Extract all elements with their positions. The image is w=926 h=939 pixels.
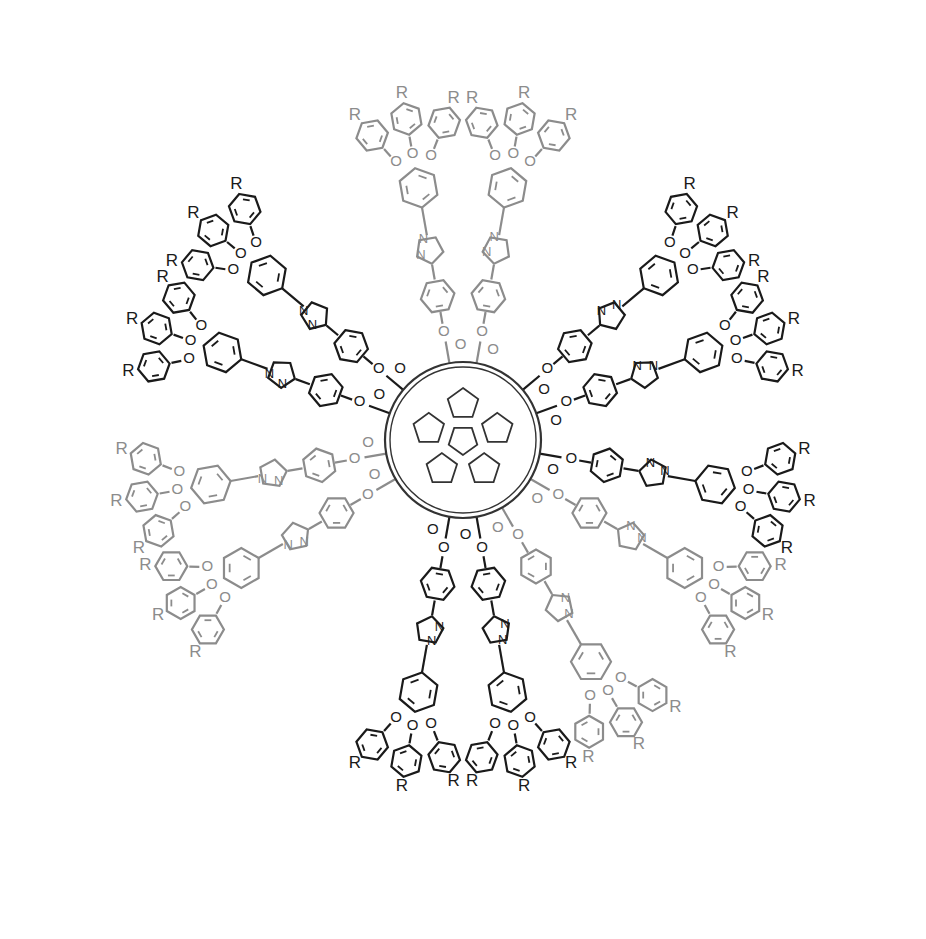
svg-text:N: N — [416, 247, 425, 262]
svg-text:O: O — [369, 465, 381, 482]
svg-text:N: N — [637, 530, 646, 545]
svg-text:O: O — [489, 714, 501, 731]
svg-text:O: O — [476, 538, 488, 555]
svg-text:N: N — [632, 358, 641, 373]
svg-text:O: O — [492, 518, 504, 535]
svg-text:O: O — [687, 260, 699, 277]
svg-text:R: R — [166, 251, 178, 270]
dendrimer-figure: OONNOROROROONNOROROROONNOROROROONNOROROR… — [0, 0, 926, 939]
svg-text:O: O — [731, 349, 743, 366]
svg-text:O: O — [541, 359, 553, 376]
svg-text:R: R — [518, 776, 530, 795]
svg-text:R: R — [775, 555, 787, 574]
svg-text:O: O — [206, 575, 218, 592]
svg-text:R: R — [126, 309, 138, 328]
svg-text:O: O — [584, 686, 596, 703]
svg-text:O: O — [664, 233, 676, 250]
dendron-arm: OONNOROROR — [460, 517, 578, 795]
dendron-arm: OONNOROROR — [166, 174, 406, 390]
svg-text:R: R — [349, 753, 361, 772]
svg-text:N: N — [498, 632, 507, 647]
svg-text:R: R — [565, 105, 577, 124]
svg-text:R: R — [448, 88, 460, 107]
svg-text:O: O — [508, 716, 520, 733]
svg-text:O: O — [362, 433, 374, 450]
svg-text:R: R — [115, 439, 127, 458]
svg-text:R: R — [724, 642, 736, 661]
svg-text:N: N — [646, 455, 655, 470]
svg-text:O: O — [538, 380, 550, 397]
svg-text:O: O — [708, 575, 720, 592]
svg-text:O: O — [438, 322, 450, 339]
svg-text:R: R — [762, 605, 774, 624]
svg-text:R: R — [798, 439, 810, 458]
svg-text:O: O — [172, 480, 184, 497]
svg-text:O: O — [460, 525, 472, 542]
svg-text:O: O — [512, 525, 524, 542]
svg-text:R: R — [565, 753, 577, 772]
svg-text:O: O — [250, 233, 262, 250]
svg-text:O: O — [407, 144, 419, 161]
svg-text:R: R — [669, 697, 681, 716]
svg-text:R: R — [396, 83, 408, 102]
svg-text:R: R — [110, 491, 122, 510]
svg-text:O: O — [183, 349, 195, 366]
svg-text:O: O — [455, 335, 467, 352]
svg-text:N: N — [283, 537, 292, 552]
svg-text:N: N — [427, 633, 436, 648]
svg-text:R: R — [791, 361, 803, 380]
svg-text:R: R — [727, 203, 739, 222]
svg-text:O: O — [219, 588, 231, 605]
svg-text:N: N — [435, 619, 444, 634]
svg-text:O: O — [180, 497, 192, 514]
svg-text:O: O — [201, 557, 213, 574]
svg-text:R: R — [349, 105, 361, 124]
svg-text:N: N — [308, 317, 317, 332]
svg-text:O: O — [394, 359, 406, 376]
svg-text:O: O — [390, 152, 402, 169]
svg-text:O: O — [615, 668, 627, 685]
svg-text:N: N — [300, 534, 309, 549]
svg-text:R: R — [189, 642, 201, 661]
svg-text:N: N — [482, 244, 491, 259]
svg-text:R: R — [139, 555, 151, 574]
svg-text:N: N — [258, 471, 267, 486]
svg-text:R: R — [781, 538, 793, 557]
svg-text:R: R — [152, 605, 164, 624]
svg-text:R: R — [396, 776, 408, 795]
svg-text:R: R — [757, 267, 769, 286]
svg-text:O: O — [427, 520, 439, 537]
svg-text:O: O — [195, 316, 207, 333]
svg-text:N: N — [649, 358, 658, 373]
dendron-arm: OONNOROROR — [492, 508, 681, 767]
svg-text:R: R — [518, 83, 530, 102]
svg-text:R: R — [582, 747, 594, 766]
svg-text:O: O — [508, 144, 520, 161]
svg-text:O: O — [565, 449, 577, 466]
dendron-arm: OONNOROROR — [110, 433, 386, 557]
svg-text:O: O — [374, 385, 386, 402]
svg-text:O: O — [185, 331, 197, 348]
svg-text:N: N — [278, 376, 287, 391]
svg-text:R: R — [466, 88, 478, 107]
svg-text:R: R — [466, 771, 478, 790]
svg-text:O: O — [407, 716, 419, 733]
svg-text:O: O — [354, 392, 366, 409]
svg-text:O: O — [552, 485, 564, 502]
svg-text:O: O — [349, 449, 361, 466]
svg-text:O: O — [227, 260, 239, 277]
svg-text:O: O — [550, 411, 562, 428]
svg-text:O: O — [362, 485, 374, 502]
svg-text:R: R — [187, 203, 199, 222]
svg-text:O: O — [373, 359, 385, 376]
svg-text:O: O — [487, 340, 499, 357]
svg-text:N: N — [564, 606, 573, 621]
svg-text:R: R — [633, 734, 645, 753]
svg-text:R: R — [122, 361, 134, 380]
molecule-diagram: OONNOROROROONNOROROROONNOROROROONNOROROR… — [0, 0, 926, 939]
svg-text:O: O — [735, 497, 747, 514]
svg-text:N: N — [597, 303, 606, 318]
svg-text:O: O — [679, 244, 691, 261]
svg-text:O: O — [730, 331, 742, 348]
svg-text:R: R — [804, 491, 816, 510]
